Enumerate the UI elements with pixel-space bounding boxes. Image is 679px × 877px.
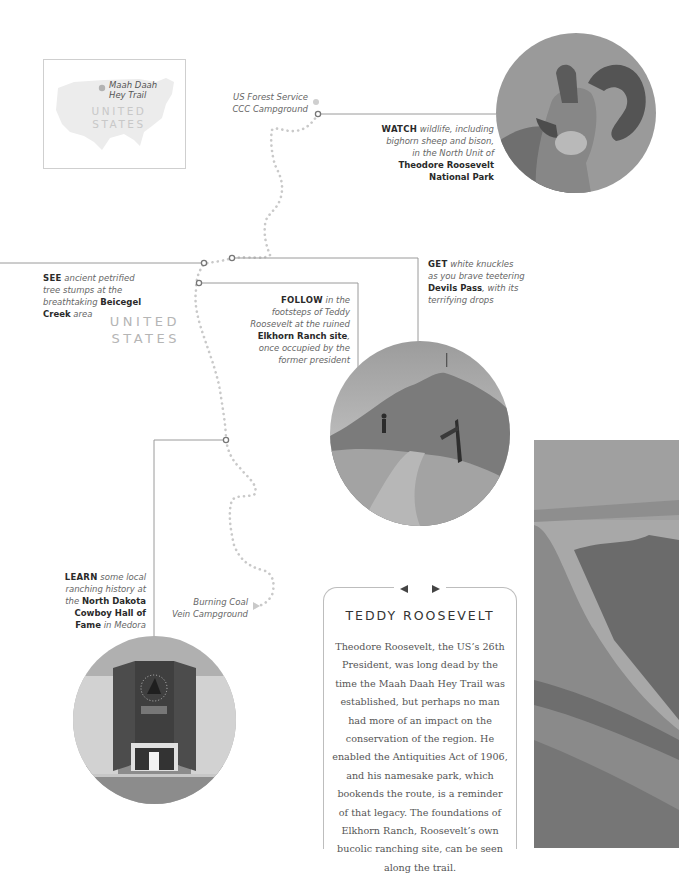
- callout-learn: LEARN some local ranching history at the…: [48, 571, 146, 631]
- campground-north-label: US Forest Service CCC Campground: [200, 91, 308, 115]
- campground-south-label: Burning Coal Vein Campground: [150, 596, 248, 620]
- callout-get: GET white knuckles as you brave teeterin…: [428, 258, 538, 306]
- arrow-right-icon: [432, 585, 440, 593]
- callout-watch: WATCH wildlife, including bighorn sheep …: [370, 123, 494, 183]
- sidebar-title: TEDDY ROOSEVELT: [324, 608, 516, 623]
- callout-follow: FOLLOW in the footsteps of Teddy Rooseve…: [232, 294, 350, 366]
- callout-see: SEE ancient petrified tree stumps at the…: [43, 272, 153, 320]
- sidebar-body: Theodore Roosevelt, the US’s 26th Presid…: [332, 638, 508, 877]
- cowboy-hall-of-fame-photo: [73, 636, 236, 804]
- badlands-cliff-photo: [534, 440, 679, 848]
- devils-pass-hiker-photo: [330, 341, 510, 526]
- teddy-roosevelt-sidebar: TEDDY ROOSEVELT Theodore Roosevelt, the …: [323, 587, 517, 849]
- arrow-left-icon: [400, 585, 408, 593]
- waypoint-markers: [196, 111, 320, 442]
- sidebar-arrows: [394, 580, 446, 592]
- bighorn-sheep-photo: [496, 33, 656, 193]
